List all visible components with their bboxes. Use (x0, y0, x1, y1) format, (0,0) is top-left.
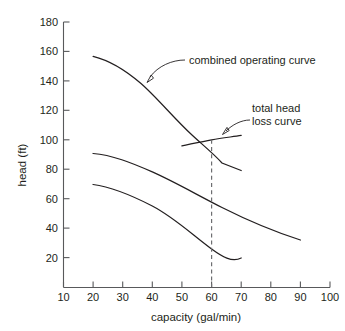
annotation-total-head-loss-curve: total head loss curve (223, 102, 302, 135)
x-tick-marks (64, 282, 331, 288)
x-tick-label-20: 20 (87, 291, 99, 303)
x-tick-label-10: 10 (57, 291, 69, 303)
y-tick-label-40: 40 (46, 222, 58, 234)
y-tick-label-60: 60 (46, 193, 58, 205)
curve-pump-lower (93, 185, 241, 260)
x-tick-label-60: 60 (205, 291, 217, 303)
x-axis-title: capacity (gal/min) (151, 311, 241, 323)
x-tick-label-30: 30 (117, 291, 129, 303)
y-tick-label-180: 180 (40, 16, 58, 28)
combined-curve-leader-line (150, 60, 185, 77)
pump-curve-chart: 180 160 140 120 100 80 60 40 20 10 20 (0, 0, 345, 331)
y-axis-title: head (ft) (16, 143, 28, 186)
loss-curve-label-line2: loss curve (252, 115, 302, 127)
curve-pump-middle (93, 154, 300, 241)
y-tick-label-140: 140 (40, 75, 58, 87)
x-tick-label-80: 80 (265, 291, 277, 303)
combined-curve-arrowhead (147, 75, 154, 83)
y-tick-labels: 180 160 140 120 100 80 60 40 20 (40, 16, 58, 264)
chart-canvas: 180 160 140 120 100 80 60 40 20 10 20 (0, 0, 345, 331)
x-tick-label-90: 90 (294, 291, 306, 303)
x-tick-label-50: 50 (176, 291, 188, 303)
y-tick-label-120: 120 (40, 104, 58, 116)
x-tick-label-40: 40 (146, 291, 158, 303)
y-tick-label-80: 80 (46, 163, 58, 175)
x-tick-label-100: 100 (321, 291, 339, 303)
y-tick-label-100: 100 (40, 134, 58, 146)
annotation-combined-operating-curve: combined operating curve (147, 54, 316, 83)
y-tick-label-20: 20 (46, 252, 58, 264)
loss-curve-leader-line (226, 120, 250, 131)
x-tick-labels: 10 20 30 40 50 60 70 80 90 100 (57, 291, 339, 303)
y-tick-label-160: 160 (40, 45, 58, 57)
loss-curve-label-line1: total head (252, 102, 300, 114)
y-tick-marks (64, 22, 70, 258)
curve-combined-operating (93, 56, 241, 170)
loss-curve-arrowhead (223, 127, 230, 134)
combined-curve-label: combined operating curve (189, 54, 316, 66)
x-tick-label-70: 70 (235, 291, 247, 303)
